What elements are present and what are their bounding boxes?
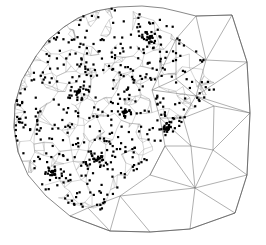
- data-point: [62, 181, 64, 183]
- data-point: [119, 52, 121, 54]
- mesh-edge: [144, 51, 153, 55]
- data-point: [163, 130, 165, 132]
- mesh-edge: [191, 146, 195, 188]
- data-point: [182, 70, 184, 72]
- data-point: [110, 161, 112, 163]
- mesh-edge: [94, 101, 95, 105]
- data-point: [83, 81, 85, 83]
- data-point: [24, 88, 26, 90]
- data-point: [33, 72, 35, 74]
- data-point: [111, 51, 113, 53]
- data-point: [82, 43, 84, 45]
- data-point: [134, 147, 136, 149]
- data-point: [49, 68, 51, 70]
- data-point: [111, 110, 113, 112]
- data-point: [51, 171, 53, 173]
- data-point: [133, 169, 135, 171]
- mesh-edge: [143, 55, 144, 61]
- data-point: [36, 133, 38, 135]
- data-point: [146, 33, 148, 35]
- data-point: [16, 100, 18, 102]
- data-point: [15, 124, 17, 126]
- data-point: [66, 132, 68, 134]
- mesh-edge: [121, 120, 130, 124]
- data-point: [69, 126, 71, 128]
- mesh-edge: [29, 162, 36, 167]
- mesh-edge: [68, 128, 75, 129]
- data-point: [130, 68, 132, 70]
- data-point: [86, 30, 88, 32]
- data-point: [51, 77, 53, 79]
- data-point: [40, 127, 42, 129]
- data-point: [15, 135, 17, 137]
- mesh-edge: [66, 60, 71, 66]
- mesh-edge: [152, 79, 176, 90]
- data-point: [112, 145, 114, 147]
- data-point: [85, 161, 87, 163]
- mesh-edge: [101, 26, 106, 35]
- data-point: [76, 36, 78, 38]
- data-point: [63, 108, 65, 110]
- data-point: [199, 92, 201, 94]
- data-point: [139, 26, 141, 28]
- data-point: [128, 94, 130, 96]
- data-point: [152, 127, 154, 129]
- data-point: [114, 47, 116, 49]
- data-point: [178, 42, 180, 44]
- fine-mesh-layer: [14, 9, 214, 208]
- data-point: [35, 115, 37, 117]
- data-point: [77, 137, 79, 139]
- data-point: [54, 166, 56, 168]
- coarse-mesh-layer: [70, 15, 250, 232]
- data-point: [162, 67, 164, 69]
- mesh-edge: [88, 208, 110, 231]
- mesh-edge: [91, 47, 93, 56]
- data-point: [117, 136, 119, 138]
- data-point: [97, 108, 99, 110]
- data-point: [68, 41, 70, 43]
- data-point: [166, 51, 168, 53]
- data-point: [144, 76, 146, 78]
- data-point: [55, 177, 57, 179]
- data-point: [48, 167, 50, 169]
- data-point: [74, 156, 76, 158]
- mesh-edge: [140, 132, 142, 142]
- data-point: [124, 151, 126, 153]
- mesh-edge: [101, 35, 107, 36]
- data-point: [148, 21, 150, 23]
- mesh-edge: [85, 15, 88, 22]
- data-point: [79, 86, 81, 88]
- data-point: [132, 156, 134, 158]
- mesh-edge: [109, 20, 111, 28]
- mesh-edge: [63, 84, 68, 91]
- data-point: [166, 131, 168, 133]
- data-point: [62, 155, 64, 157]
- mesh-edge: [109, 18, 112, 20]
- data-point: [158, 128, 160, 130]
- data-point: [50, 156, 52, 158]
- mesh-edge: [183, 118, 191, 146]
- data-point: [154, 78, 156, 80]
- data-point: [67, 180, 69, 182]
- mesh-edge: [81, 180, 86, 183]
- data-point: [144, 31, 146, 33]
- mesh-edge: [148, 140, 152, 147]
- data-point: [178, 39, 180, 41]
- mesh-edge: [67, 25, 69, 29]
- data-point: [88, 159, 90, 161]
- data-point: [71, 200, 73, 202]
- data-point: [58, 32, 60, 34]
- data-point: [164, 134, 166, 136]
- mesh-edge: [30, 141, 34, 145]
- mesh-edge: [136, 127, 138, 132]
- data-point: [99, 130, 101, 132]
- mesh-edge: [75, 106, 79, 111]
- data-point: [68, 82, 70, 84]
- mesh-edge: [117, 175, 118, 187]
- data-point: [114, 156, 116, 158]
- data-point: [198, 100, 200, 102]
- data-point: [45, 188, 47, 190]
- data-point: [151, 35, 153, 37]
- data-point: [36, 128, 38, 130]
- mesh-edge: [44, 150, 45, 155]
